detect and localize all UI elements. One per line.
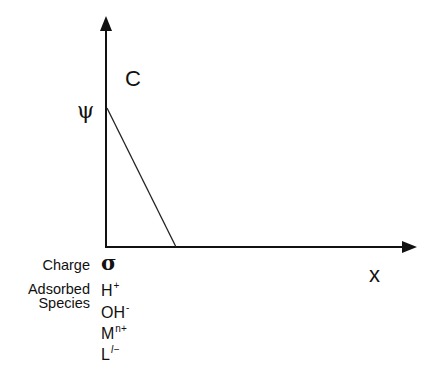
species-base: OH — [101, 304, 125, 321]
species-charge: l− — [111, 344, 119, 355]
species-charge: n+ — [115, 323, 126, 334]
psi-label: ψ — [77, 100, 94, 122]
species-ligand-anion: Ll− — [101, 345, 119, 363]
y-axis-arrowhead — [100, 16, 112, 31]
axes-diagram — [0, 0, 437, 378]
sigma-symbol: σ — [101, 252, 116, 273]
x-axis-arrowhead — [402, 241, 417, 253]
species-base: L — [101, 346, 110, 363]
species-charge: + — [114, 280, 120, 291]
species-metal-cation: Mn+ — [101, 324, 127, 342]
species-base: M — [101, 325, 114, 342]
species-label: Species — [38, 296, 90, 311]
species-base: H — [101, 282, 113, 299]
x-axis-label: x — [369, 264, 380, 286]
y-axis-label: C — [125, 68, 141, 90]
species-charge: - — [126, 302, 129, 313]
species-h-plus: H+ — [101, 281, 119, 299]
species-oh-minus: OH- — [101, 303, 129, 321]
charge-label: Charge — [42, 258, 90, 273]
profile-line — [107, 108, 176, 247]
